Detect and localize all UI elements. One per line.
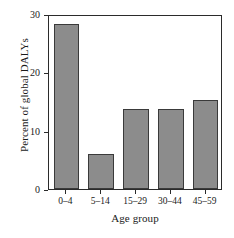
y-tick-label: 0 (10, 185, 40, 195)
x-tick-label: 15–29 (123, 196, 147, 207)
bar-30-44 (158, 109, 184, 189)
x-tick-mark (135, 190, 136, 194)
y-tick-label: 20 (10, 68, 40, 78)
y-tick-label: 10 (10, 127, 40, 137)
y-axis-title: Percent of global DALYs (16, 0, 32, 190)
x-tick-mark (65, 190, 66, 194)
x-tick-label: 0–4 (58, 196, 72, 207)
bar-45-59 (193, 100, 219, 189)
bar-5-14 (88, 154, 114, 189)
x-tick-label: 5–14 (91, 196, 110, 207)
y-tick-label: 30 (10, 10, 40, 20)
bar-chart: Percent of global DALYs 0102030 0–45–141… (0, 0, 234, 238)
bar-15-29 (123, 109, 149, 189)
x-tick-label: 45–59 (193, 196, 217, 207)
y-tick-mark (44, 190, 48, 191)
x-tick-mark (100, 190, 101, 194)
x-tick-mark (170, 190, 171, 194)
x-tick-label: 30–44 (158, 196, 182, 207)
bar-0-4 (54, 24, 80, 189)
x-tick-mark (205, 190, 206, 194)
bars-layer (49, 16, 221, 189)
x-axis-title: Age group (48, 212, 222, 225)
plot-area (48, 15, 222, 190)
